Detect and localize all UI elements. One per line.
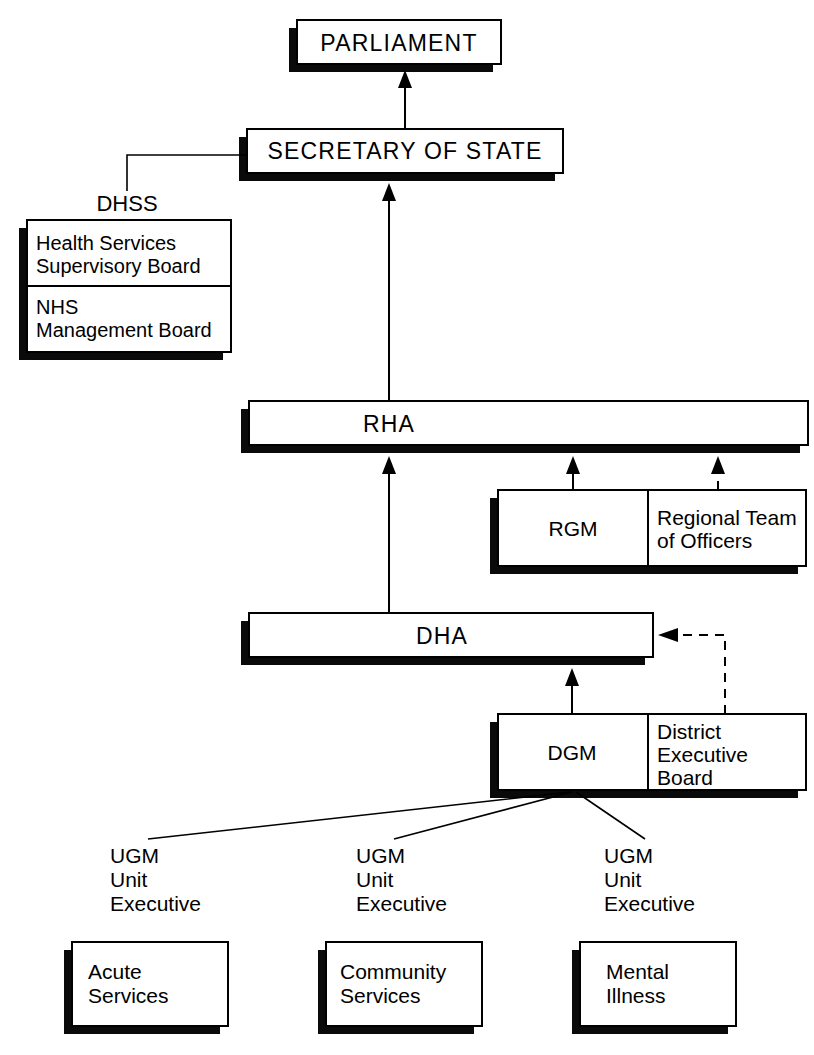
node-rha: RHA — [241, 401, 808, 453]
arrowhead-up-icon — [382, 183, 396, 201]
edge-secretary-to-parliament — [398, 70, 412, 129]
node-dha: DHA — [241, 613, 653, 665]
node-parliament: PARLIAMENT — [289, 20, 501, 72]
node-unit-acute-services: UGM Unit Executive Acute Services — [64, 844, 228, 1034]
dhss-cell-supervisory-board: Health Services Supervisory Board — [36, 232, 201, 277]
unit-1-ugm-line2: Unit — [356, 868, 394, 891]
district-box — [498, 714, 806, 790]
regional-team-line1: Regional Team — [657, 506, 797, 529]
edge-dha-to-rha — [382, 456, 396, 613]
dhss-label: DHSS — [96, 191, 157, 216]
district-board-line1: District — [657, 720, 721, 743]
unit-1-ugm-line1: UGM — [356, 844, 405, 867]
edge-dgm-to-dha — [565, 668, 579, 714]
dhss-cell-1-line2: Management Board — [36, 319, 212, 341]
unit-0-ugm-line1: UGM — [110, 844, 159, 867]
arrowhead-up-icon — [565, 668, 579, 686]
edge-line — [576, 792, 645, 839]
edge-secretary-to-dhss — [127, 155, 247, 191]
parliament-label: PARLIAMENT — [320, 30, 477, 56]
district-board-line3: Board — [657, 766, 713, 789]
unit-2-ugm-line1: UGM — [604, 844, 653, 867]
dhss-cell-1-line1: NHS — [36, 296, 78, 318]
org-chart-diagram: PARLIAMENT SECRETARY OF STATE DHSS Healt… — [0, 0, 814, 1055]
edge-line — [148, 792, 570, 839]
edge-line — [678, 635, 725, 714]
unit-1-service-line1: Community — [340, 960, 447, 983]
unit-2-ugm-line3: Executive — [604, 892, 695, 915]
dha-label: DHA — [416, 623, 468, 649]
edge-dgm-to-ugm-2 — [394, 792, 572, 839]
arrowhead-left-icon — [658, 628, 678, 642]
dhss-cell-0-line2: Supervisory Board — [36, 255, 201, 277]
edge-line — [394, 792, 572, 839]
unit-2-ugm-line2: Unit — [604, 868, 642, 891]
arrowhead-up-icon — [382, 456, 396, 474]
edge-rha-to-secretary — [382, 183, 396, 401]
node-district-row: DGM District Executive Board — [490, 714, 806, 798]
district-board-line2: Executive — [657, 743, 748, 766]
arrowhead-up-icon — [398, 70, 412, 88]
diagram-canvas: PARLIAMENT SECRETARY OF STATE DHSS Healt… — [0, 0, 814, 1055]
unit-0-ugm-line2: Unit — [110, 868, 148, 891]
unit-0-service-line1: Acute — [88, 960, 142, 983]
node-dhss: DHSS Health Services Supervisory Board N… — [19, 191, 231, 360]
unit-0-service-line2: Services — [88, 984, 169, 1007]
rha-label: RHA — [363, 411, 415, 437]
secretary-of-state-label: SECRETARY OF STATE — [267, 138, 542, 164]
edge-line — [127, 155, 247, 191]
unit-2-service-line2: Illness — [606, 984, 666, 1007]
dgm-label: DGM — [548, 741, 597, 764]
edge-district-board-to-dha — [658, 628, 725, 714]
edge-dgm-to-ugm-1 — [148, 792, 570, 839]
node-unit-community-services: UGM Unit Executive Community Services — [318, 844, 482, 1034]
regional-team-line2: of Officers — [657, 529, 752, 552]
unit-1-service-line2: Services — [340, 984, 421, 1007]
edge-dgm-to-ugm-3 — [576, 792, 645, 839]
dhss-cell-0-line1: Health Services — [36, 232, 176, 254]
node-unit-mental-illness: UGM Unit Executive Mental Illness — [572, 844, 736, 1034]
rha-box — [249, 401, 808, 445]
unit-2-service-line1: Mental — [606, 960, 669, 983]
edge-rgm-to-rha — [566, 456, 580, 490]
node-secretary-of-state: SECRETARY OF STATE — [239, 129, 563, 181]
node-regional-row: RGM Regional Team of Officers — [490, 490, 806, 574]
arrowhead-up-icon — [711, 456, 725, 474]
rgm-label: RGM — [549, 517, 598, 540]
unit-0-ugm-line3: Executive — [110, 892, 201, 915]
arrowhead-up-icon — [566, 456, 580, 474]
unit-1-ugm-line3: Executive — [356, 892, 447, 915]
edge-regional-team-to-rha — [711, 456, 725, 490]
